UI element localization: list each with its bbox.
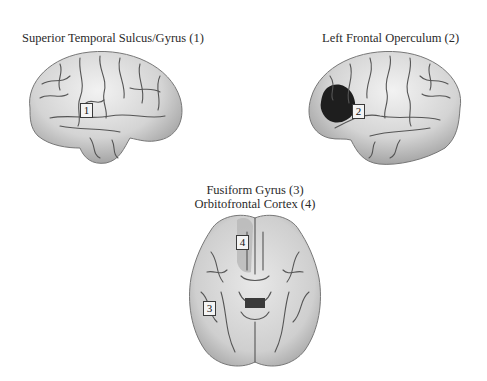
- brain-lateral-left-illustration: [305, 48, 470, 168]
- panel-3-title-line-2: Orbitofrontal Cortex (4): [190, 197, 320, 212]
- panel-1-title: Superior Temporal Sulcus/Gyrus (1): [22, 31, 204, 46]
- panel-3-title-line-1: Fusiform Gyrus (3): [200, 183, 310, 198]
- region-marker-1: 1: [80, 103, 93, 118]
- brain-ventral-illustration: [181, 212, 329, 372]
- brain-lateral-illustration: [20, 48, 185, 166]
- panel-2-title: Left Frontal Operculum (2): [322, 31, 459, 46]
- region-marker-3: 3: [203, 301, 216, 316]
- region-marker-2: 2: [352, 104, 365, 119]
- brain-lateral-left-icon: [305, 48, 470, 168]
- brain-ventral-icon: [181, 212, 329, 372]
- region-marker-4: 4: [236, 235, 249, 250]
- brain-lateral-icon: [20, 48, 185, 166]
